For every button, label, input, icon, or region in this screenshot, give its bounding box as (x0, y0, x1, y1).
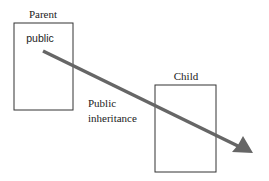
inheritance-label: Public inheritance (88, 97, 137, 124)
label-line-1: Public (88, 97, 116, 109)
parent-title: Parent (29, 8, 57, 20)
inheritance-diagram: Parent public Child Public inheritance (0, 0, 269, 181)
child-title: Child (174, 70, 199, 82)
parent-public-member: public (26, 32, 53, 44)
inheritance-arrow (43, 51, 253, 153)
child-box (155, 85, 216, 172)
parent-class: Parent public (14, 8, 73, 110)
label-line-2: inheritance (88, 112, 137, 124)
